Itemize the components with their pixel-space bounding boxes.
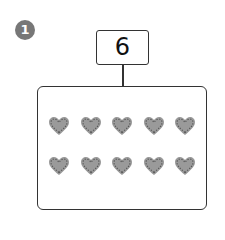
heart-icon	[48, 156, 70, 176]
heart-icon	[80, 156, 102, 176]
number-value: 6	[115, 33, 130, 61]
number-box: 6	[96, 30, 149, 65]
heart-icon	[111, 116, 133, 136]
heart-icon	[174, 116, 196, 136]
objects-box	[37, 86, 207, 210]
problem-number-badge: 1	[15, 20, 35, 40]
heart-icon	[80, 116, 102, 136]
heart-icon	[174, 156, 196, 176]
heart-icon	[48, 116, 70, 136]
heart-icon	[143, 156, 165, 176]
connector-line	[122, 65, 124, 87]
heart-icon	[143, 116, 165, 136]
heart-icon	[111, 156, 133, 176]
